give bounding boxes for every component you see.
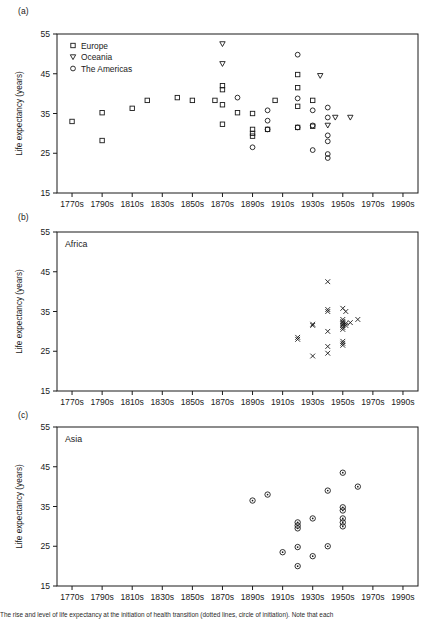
plot-frame <box>57 232 418 391</box>
marker-center-dot <box>297 528 299 530</box>
marker-square <box>220 122 224 126</box>
marker-square <box>311 98 315 102</box>
marker-center-dot <box>327 545 329 547</box>
marker-triangle-down <box>325 123 330 128</box>
panel-name-label: Asia <box>65 434 82 444</box>
panel-b-tag: (b) <box>18 212 29 222</box>
y-tick-label: 45 <box>40 69 50 79</box>
y-tick-label: 35 <box>40 502 50 512</box>
marker-triangle-down <box>220 42 225 47</box>
marker-square <box>130 106 134 110</box>
y-tick-label: 35 <box>40 307 50 317</box>
panel-c-plot: 15253545551770s1790s1810s1830s1850s1870s… <box>0 403 447 608</box>
marker-center-dot <box>327 490 329 492</box>
marker-square <box>190 98 194 102</box>
marker-triangle-down <box>220 62 225 67</box>
y-tick-label: 15 <box>40 188 50 198</box>
x-tick-label: 1850s <box>181 592 204 602</box>
marker-center-dot <box>312 555 314 557</box>
marker-square <box>71 43 75 47</box>
marker-triangle-down <box>70 55 75 60</box>
figure-life-expectancy: (a) 15253545551770s1790s1810s1830s1850s1… <box>0 0 447 622</box>
marker-square <box>100 111 104 115</box>
panel-b: (b) 15253545551770s1790s1810s1830s1850s1… <box>0 205 447 405</box>
plot-frame <box>57 427 418 586</box>
legend-item-the-americas: The Americas <box>71 64 133 74</box>
marker-x <box>355 317 360 322</box>
marker-circle <box>325 115 330 120</box>
marker-x <box>325 329 330 334</box>
legend-label: Oceania <box>81 52 113 62</box>
marker-center-dot <box>357 486 359 488</box>
panel-c: (c) 15253545551770s1790s1810s1830s1850s1… <box>0 403 447 608</box>
series-europe <box>70 72 315 142</box>
marker-triangle-down <box>348 115 353 120</box>
x-tick-label: 1910s <box>271 592 294 602</box>
y-tick-label: 25 <box>40 346 50 356</box>
x-tick-label: 1810s <box>120 592 143 602</box>
marker-circle <box>295 52 300 57</box>
x-tick-label: 1990s <box>391 592 414 602</box>
legend-item-oceania: Oceania <box>70 52 112 62</box>
marker-square <box>100 138 104 142</box>
marker-triangle-down <box>318 74 323 79</box>
y-tick-label: 45 <box>40 462 50 472</box>
marker-square <box>145 98 149 102</box>
marker-circle <box>325 133 330 138</box>
marker-circle <box>310 148 315 153</box>
panel-a: (a) 15253545551770s1790s1810s1830s1850s1… <box>0 0 447 208</box>
marker-circle <box>265 118 270 123</box>
y-axis-title: Life expectancy (years) <box>15 269 24 354</box>
marker-square <box>235 111 239 115</box>
panel-a-plot: 15253545551770s1790s1810s1830s1850s1870s… <box>0 0 447 208</box>
marker-x <box>325 351 330 356</box>
marker-square <box>295 104 299 108</box>
marker-square <box>250 134 254 138</box>
marker-triangle-down <box>333 115 338 120</box>
y-axis-title: Life expectancy (years) <box>15 71 24 156</box>
marker-center-dot <box>297 565 299 567</box>
x-tick-label: 1930s <box>301 592 324 602</box>
marker-circle <box>235 95 240 100</box>
marker-square <box>175 95 179 99</box>
marker-circle <box>325 105 330 110</box>
marker-circle <box>71 66 76 71</box>
marker-circle <box>310 108 315 113</box>
marker-x <box>348 320 353 325</box>
legend-item-europe: Europe <box>71 41 109 51</box>
x-tick-label: 1970s <box>361 592 384 602</box>
x-tick-label: 1870s <box>211 592 234 602</box>
marker-center-dot <box>252 500 254 502</box>
y-tick-label: 55 <box>40 227 50 237</box>
marker-x <box>325 344 330 349</box>
x-tick-label: 1950s <box>331 592 354 602</box>
marker-x <box>310 354 315 359</box>
y-tick-label: 35 <box>40 109 50 119</box>
marker-center-dot <box>297 546 299 548</box>
marker-center-dot <box>312 518 314 520</box>
marker-square <box>213 98 217 102</box>
x-tick-label: 1890s <box>241 592 264 602</box>
marker-center-dot <box>342 522 344 524</box>
marker-circle <box>325 139 330 144</box>
y-axis-title: Life expectancy (years) <box>15 464 24 549</box>
x-tick-label: 1770s <box>60 592 83 602</box>
marker-circle <box>265 108 270 113</box>
panel-c-tag: (c) <box>18 410 28 420</box>
marker-square <box>70 119 74 123</box>
y-tick-label: 25 <box>40 541 50 551</box>
marker-center-dot <box>342 526 344 528</box>
marker-circle <box>265 127 270 132</box>
x-tick-label: 1830s <box>151 592 174 602</box>
legend-label: The Americas <box>81 64 132 74</box>
y-tick-label: 55 <box>40 29 50 39</box>
marker-square <box>250 111 254 115</box>
marker-center-dot <box>342 510 344 512</box>
series-the-americas <box>235 52 330 160</box>
series-asia <box>250 470 361 569</box>
marker-square <box>295 85 299 89</box>
marker-center-dot <box>342 518 344 520</box>
marker-circle <box>250 145 255 150</box>
y-tick-label: 15 <box>40 386 50 396</box>
marker-square <box>273 98 277 102</box>
